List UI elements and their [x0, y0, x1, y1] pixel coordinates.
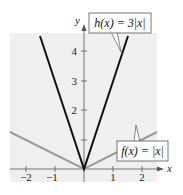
y-axis-label: y — [74, 14, 80, 26]
chart: −2 −1 1 2 2 3 4 x y h(x) = 3|x| f(x) = |… — [0, 0, 183, 195]
x-axis-arrow-icon — [157, 167, 164, 172]
x-tick-label: −1 — [46, 171, 58, 183]
h-callout-label: h(x) = 3|x| — [94, 16, 145, 30]
y-axis-arrow-icon — [82, 24, 87, 31]
x-tick-label: 1 — [110, 171, 116, 183]
y-tick-label: 3 — [72, 75, 78, 87]
f-callout-label: f(x) = |x| — [121, 144, 164, 158]
y-tick-label: 2 — [72, 104, 78, 116]
x-tick-label: 2 — [139, 171, 145, 183]
y-tick-label: 4 — [72, 45, 78, 57]
x-tick-label: −2 — [20, 171, 32, 183]
x-axis-label: x — [166, 162, 172, 174]
